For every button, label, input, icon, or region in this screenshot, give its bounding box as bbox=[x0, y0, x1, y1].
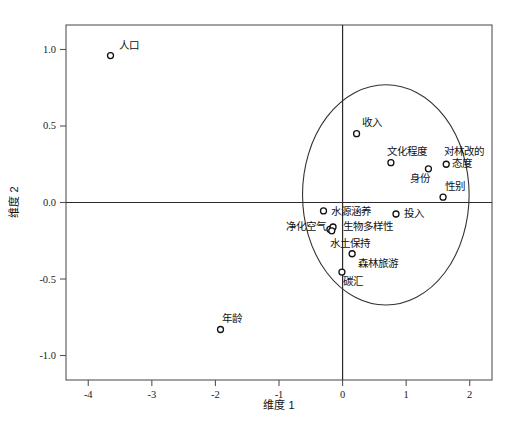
y-tick-label: -1.0 bbox=[39, 350, 56, 361]
x-tick-label: -3 bbox=[147, 389, 156, 400]
point-label: 性别 bbox=[445, 180, 465, 192]
point-label: 水土保持 bbox=[330, 237, 371, 249]
y-tick-label: -0.5 bbox=[39, 274, 56, 285]
point-label: 文化程度 bbox=[387, 145, 428, 157]
y-tick-label: 0.0 bbox=[43, 197, 56, 208]
data-point: 性别 bbox=[440, 180, 465, 200]
point-label: 生物多样性 bbox=[343, 220, 393, 232]
point-label: 森林旅游 bbox=[358, 257, 399, 269]
data-point: 净化空气 bbox=[286, 220, 333, 232]
point-label: 人口 bbox=[119, 39, 139, 51]
x-axis-title: 维度 1 bbox=[263, 398, 294, 411]
y-axis-title: 维度 2 bbox=[7, 186, 20, 217]
point-marker bbox=[329, 228, 335, 234]
point-label: 碳汇 bbox=[343, 275, 363, 287]
data-point: 收入 bbox=[354, 116, 383, 137]
x-tick-label: -2 bbox=[211, 389, 220, 400]
point-marker bbox=[393, 211, 399, 217]
figure-caption bbox=[0, 429, 517, 443]
data-point: 投入 bbox=[393, 207, 425, 219]
data-point: 态度 bbox=[452, 157, 473, 169]
data-point: 年龄 bbox=[218, 312, 243, 333]
x-tick-label: -4 bbox=[84, 389, 93, 400]
point-label: 水源涵养 bbox=[331, 205, 372, 217]
point-marker bbox=[354, 131, 360, 137]
x-axis-ticks: -4-3-2-1012 bbox=[84, 380, 472, 400]
data-point: 森林旅游 bbox=[349, 251, 399, 269]
y-axis-ticks: 1.00.50.0-0.5-1.0 bbox=[39, 44, 66, 361]
data-point: 文化程度 bbox=[387, 145, 428, 166]
plot-canvas: -4-3-2-1012 1.00.50.0-0.5-1.0 人口年龄收入文化程度… bbox=[0, 0, 517, 443]
data-point: 水源涵养 bbox=[321, 205, 372, 217]
x-tick-label: 2 bbox=[467, 389, 472, 400]
point-label: 身份 bbox=[410, 172, 431, 184]
point-label: 净化空气 bbox=[286, 220, 327, 232]
point-label: 对林改的 bbox=[444, 145, 484, 157]
data-point: 身份 bbox=[410, 166, 431, 184]
y-tick-label: 0.5 bbox=[43, 120, 56, 131]
x-tick-label: 1 bbox=[404, 389, 409, 400]
point-label: 收入 bbox=[362, 116, 383, 128]
data-point: 生物多样性 bbox=[330, 220, 393, 232]
data-point: 人口 bbox=[108, 39, 139, 59]
point-marker bbox=[440, 194, 446, 200]
point-marker bbox=[388, 160, 394, 166]
data-point: 碳汇 bbox=[339, 269, 363, 287]
point-marker bbox=[321, 208, 327, 214]
point-label: 态度 bbox=[452, 157, 473, 169]
point-label: 投入 bbox=[404, 207, 425, 219]
y-tick-label: 1.0 bbox=[43, 44, 56, 55]
data-points-layer: 人口年龄收入文化程度身份对林改的态度性别水源涵养投入净化空气生物多样性水土保持森… bbox=[108, 39, 485, 333]
point-marker bbox=[443, 161, 449, 167]
scatter-plot-figure: -4-3-2-1012 1.00.50.0-0.5-1.0 人口年龄收入文化程度… bbox=[0, 0, 517, 443]
point-marker bbox=[108, 53, 114, 59]
x-tick-label: 0 bbox=[340, 389, 345, 400]
point-marker bbox=[349, 251, 355, 257]
point-marker bbox=[218, 327, 224, 333]
point-label: 年龄 bbox=[222, 312, 243, 324]
